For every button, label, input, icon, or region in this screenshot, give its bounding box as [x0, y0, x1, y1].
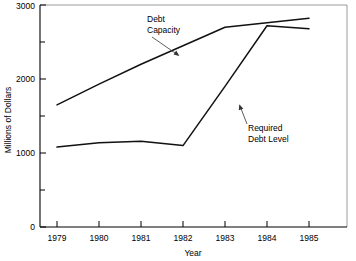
chart-figure: 0 1000 2000 3000 Millions of Dollars 197…	[0, 0, 356, 261]
y-axis-minor-ticks	[40, 42, 45, 190]
x-axis-title: Year	[184, 248, 201, 258]
series-line-debt-capacity	[57, 18, 309, 105]
x-tick-label-1984: 1984	[258, 233, 277, 243]
annotation-debt-capacity-leader	[152, 37, 178, 55]
x-axis-ticks	[57, 221, 309, 227]
x-tick-label-1979: 1979	[48, 233, 67, 243]
y-axis-title: Millions of Dollars	[3, 87, 13, 154]
line-chart: 0 1000 2000 3000 Millions of Dollars 197…	[0, 0, 356, 261]
annotation-debt-capacity-arrowhead	[174, 51, 180, 56]
x-tick-label-1983: 1983	[216, 233, 235, 243]
plot-frame	[40, 5, 347, 227]
x-tick-label-1985: 1985	[300, 233, 319, 243]
annotation-debt-capacity-line2: Capacity	[147, 25, 181, 35]
x-tick-label-1982: 1982	[174, 233, 193, 243]
annotation-debt-capacity-line1: Debt	[147, 14, 166, 24]
annotation-required-debt-level-line1: Required	[248, 123, 283, 133]
y-tick-label-1000: 1000	[16, 148, 35, 158]
y-tick-label-3000: 3000	[16, 1, 35, 11]
x-tick-label-1981: 1981	[132, 233, 151, 243]
y-tick-label-0: 0	[30, 222, 35, 232]
y-tick-label-2000: 2000	[16, 74, 35, 84]
annotation-required-debt-level: Required Debt Level	[239, 104, 289, 144]
annotation-required-debt-level-arrowhead	[239, 104, 244, 110]
x-tick-label-1980: 1980	[90, 233, 109, 243]
annotation-required-debt-level-line2: Debt Level	[248, 134, 289, 144]
